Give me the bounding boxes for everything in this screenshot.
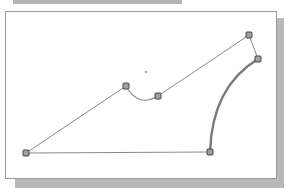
node-handle-C[interactable] <box>155 93 161 99</box>
marks-group <box>145 71 147 73</box>
center-mark-icon <box>145 71 147 73</box>
node-handle-B[interactable] <box>123 83 129 89</box>
edge-F-A <box>26 152 210 153</box>
edge-B-C <box>126 86 158 100</box>
edges-group <box>26 35 258 153</box>
edge-C-D <box>158 35 249 96</box>
drawing-canvas <box>0 0 288 192</box>
diagram-stage <box>0 0 288 192</box>
node-handle-F[interactable] <box>207 149 213 155</box>
node-handle-A[interactable] <box>23 150 29 156</box>
node-handle-E[interactable] <box>255 56 261 62</box>
node-handle-D[interactable] <box>246 32 252 38</box>
edge-E-F <box>210 59 258 152</box>
edge-A-B <box>26 86 126 153</box>
edge-D-E <box>249 35 258 59</box>
